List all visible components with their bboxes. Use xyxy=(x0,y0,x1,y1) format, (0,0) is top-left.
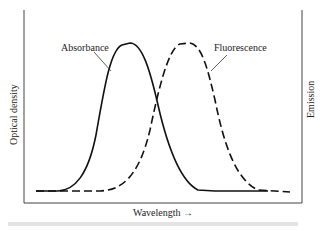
chart: Absorbance Fluorescence Wavelength → Opt… xyxy=(0,0,323,231)
fluorescence-leader xyxy=(211,55,227,71)
fluorescence-label: Fluorescence xyxy=(214,42,267,53)
fluorescence-curve xyxy=(36,43,290,192)
y-axis-right-label: Emission xyxy=(305,81,316,118)
x-axis-label: Wavelength → xyxy=(133,207,193,218)
absorbance-leader xyxy=(94,52,111,71)
y-axis-left-label: Optical density xyxy=(8,84,19,145)
caption-strip xyxy=(8,222,298,226)
absorbance-label: Absorbance xyxy=(61,42,109,53)
